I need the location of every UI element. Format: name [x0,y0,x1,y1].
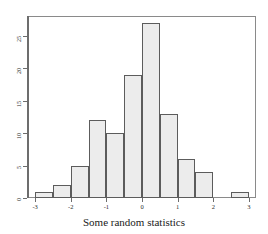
x-tick-mark [142,198,143,202]
y-tick-label: 10 [16,133,22,139]
x-axis: -3-2-10123 [28,198,256,216]
y-tick-mark [23,36,27,37]
histogram-bar [160,114,178,199]
chart-caption: Some random statistics [0,216,268,228]
x-tick-label: -1 [104,204,109,211]
y-tick-label: 15 [16,101,22,107]
histogram-bars [28,16,256,198]
histogram-bar [178,159,196,198]
x-tick-label: -2 [68,204,73,211]
y-tick-label: 20 [16,68,22,74]
y-tick-mark [23,68,27,69]
histogram-bar [89,120,107,198]
y-tick-label: 25 [16,36,22,42]
y-tick-label: 5 [16,166,22,169]
y-tick-label: 0 [16,198,22,201]
y-tick-mark [23,166,27,167]
histogram-bar [53,185,71,198]
x-tick-label: -3 [32,204,37,211]
histogram-bar [124,75,142,199]
x-tick-label: 3 [247,204,250,211]
histogram-bar [142,23,160,199]
histogram-figure: 0510152025 -3-2-10123 Some random statis… [0,0,268,234]
y-axis: 0510152025 [27,16,29,198]
x-tick-label: 0 [140,204,143,211]
x-tick-mark [213,198,214,202]
x-tick-label: 2 [212,204,215,211]
x-tick-mark [35,198,36,202]
histogram-bar [195,172,213,198]
histogram-bar [106,133,124,198]
histogram-bar [71,166,89,199]
y-tick-mark [23,198,27,199]
x-tick-mark [178,198,179,202]
y-tick-mark [23,101,27,102]
x-tick-mark [71,198,72,202]
y-tick-mark [23,133,27,134]
x-tick-mark [106,198,107,202]
x-tick-label: 1 [176,204,179,211]
x-tick-mark [249,198,250,202]
plot-area [28,16,256,198]
